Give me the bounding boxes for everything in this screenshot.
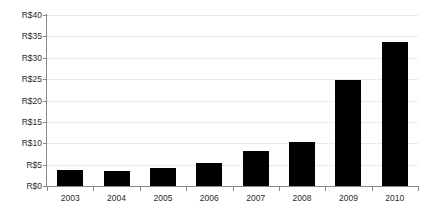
bar-2009 <box>335 80 361 186</box>
bar-2008 <box>289 142 315 186</box>
gridline-R$10 <box>47 143 418 144</box>
x-tick-2006 <box>233 186 234 191</box>
y-axis-label-R$0: R$0 <box>0 182 42 191</box>
gridline-R$25 <box>47 79 418 80</box>
x-axis-label-2004: 2004 <box>93 194 139 203</box>
y-axis-label-R$25: R$25 <box>0 75 42 84</box>
gridlines <box>47 15 418 186</box>
x-axis-label-2007: 2007 <box>233 194 279 203</box>
bar-chart: R$0R$5R$10R$15R$20R$25R$30R$35R$40 20032… <box>0 0 429 216</box>
y-tick-R$10 <box>43 143 47 144</box>
y-axis <box>46 14 47 187</box>
x-axis-label-2008: 2008 <box>279 194 325 203</box>
y-axis-label-R$10: R$10 <box>0 139 42 148</box>
gridline-R$35 <box>47 36 418 37</box>
bar-2006 <box>196 163 222 186</box>
bar-2010 <box>382 42 408 186</box>
y-tick-R$40 <box>43 15 47 16</box>
x-tick-2008 <box>325 186 326 191</box>
y-axis-label-R$30: R$30 <box>0 54 42 63</box>
gridline-R$20 <box>47 101 418 102</box>
y-axis-label-R$20: R$20 <box>0 97 42 106</box>
y-tick-R$20 <box>43 101 47 102</box>
x-axis-label-2010: 2010 <box>372 194 418 203</box>
bar-2007 <box>243 151 269 186</box>
gridline-R$15 <box>47 122 418 123</box>
x-tick-2003 <box>93 186 94 191</box>
y-tick-R$25 <box>43 79 47 80</box>
bar-2003 <box>57 170 83 186</box>
x-tick-2004 <box>140 186 141 191</box>
y-axis-label-R$15: R$15 <box>0 118 42 127</box>
x-axis-label-2003: 2003 <box>47 194 93 203</box>
x-tick-end <box>418 186 419 191</box>
bar-2004 <box>104 171 130 186</box>
x-tick-2005 <box>186 186 187 191</box>
y-axis-label-R$40: R$40 <box>0 11 42 20</box>
x-axis-label-2006: 2006 <box>186 194 232 203</box>
x-tick-2009 <box>372 186 373 191</box>
y-tick-R$5 <box>43 165 47 166</box>
y-tick-R$30 <box>43 58 47 59</box>
y-axis-label-R$35: R$35 <box>0 32 42 41</box>
gridline-R$30 <box>47 58 418 59</box>
bar-2005 <box>150 168 176 186</box>
x-tick-start <box>47 186 48 191</box>
gridline-R$40 <box>47 15 418 16</box>
x-axis-label-2009: 2009 <box>325 194 371 203</box>
y-tick-R$15 <box>43 122 47 123</box>
x-axis-label-2005: 2005 <box>140 194 186 203</box>
y-axis-label-R$5: R$5 <box>0 161 42 170</box>
plot-area <box>47 15 418 186</box>
y-tick-R$35 <box>43 36 47 37</box>
gridline-R$5 <box>47 165 418 166</box>
x-tick-2007 <box>279 186 280 191</box>
